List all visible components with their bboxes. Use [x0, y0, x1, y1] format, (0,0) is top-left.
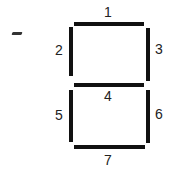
segment-5-label: 5 [55, 108, 63, 122]
stray-mark [11, 32, 22, 35]
segment-7 [74, 145, 145, 149]
segment-6 [146, 90, 150, 143]
segment-2 [69, 27, 73, 76]
segment-1 [74, 22, 144, 26]
segment-4 [74, 83, 144, 87]
segment-2-label: 2 [55, 43, 63, 57]
segment-4-label: 4 [104, 89, 112, 103]
segment-3-label: 3 [155, 42, 163, 56]
segment-5 [69, 90, 73, 142]
segment-1-label: 1 [104, 5, 112, 19]
segment-6-label: 6 [155, 107, 163, 121]
segment-7-label: 7 [104, 153, 112, 167]
segment-3 [146, 28, 150, 81]
